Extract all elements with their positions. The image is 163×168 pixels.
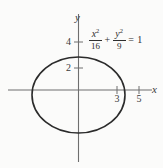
exponent-two: 2	[120, 27, 123, 34]
x-axis-label: x	[152, 84, 157, 95]
y-axis-label: y	[75, 12, 80, 23]
equals-operator: =	[128, 35, 134, 45]
y-tick-label-2: 2	[60, 63, 71, 73]
figure-canvas	[0, 0, 163, 168]
x-tick-label-5: 5	[134, 94, 144, 104]
ellipse-equation-label: x2 16 + y2 9 = 1	[88, 29, 142, 51]
y-tick-label-4: 4	[60, 37, 71, 47]
fraction-denominator: 16	[89, 41, 102, 51]
fraction-x-squared-over-16: x2 16	[89, 29, 102, 51]
exponent-two: 2	[96, 27, 99, 34]
plus-operator: +	[105, 35, 111, 45]
right-hand-side: 1	[137, 35, 142, 45]
ellipse-figure: y x 4 2 3 5 x2 16 + y2 9 = 1	[0, 0, 163, 168]
x-tick-label-3: 3	[112, 94, 122, 104]
fraction-y-squared-over-9: y2 9	[113, 29, 126, 51]
fraction-numerator: y2	[113, 29, 125, 40]
fraction-denominator: 9	[115, 41, 124, 51]
fraction-numerator: x2	[90, 29, 102, 40]
